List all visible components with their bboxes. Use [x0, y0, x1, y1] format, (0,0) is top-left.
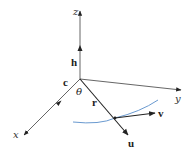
x-axis-label: x — [13, 129, 19, 140]
r-u-vector — [80, 79, 128, 135]
v-vector-label: v — [158, 107, 164, 119]
vector-diagram: z h y x c θ r u v — [0, 0, 195, 155]
trajectory-curve — [73, 100, 158, 123]
v-vector — [115, 113, 155, 118]
c-arrowhead-icon — [56, 101, 62, 107]
x-axis — [24, 79, 80, 135]
u-vector-label: u — [128, 137, 134, 149]
z-axis — [78, 11, 83, 79]
r-vector-label: r — [92, 96, 97, 108]
h-arrowhead-icon — [78, 45, 83, 51]
y-axis — [80, 79, 181, 90]
h-vector-label: h — [71, 56, 77, 68]
theta-angle-label: θ — [76, 86, 82, 97]
y-axis-label: y — [174, 93, 181, 104]
z-axis-label: z — [72, 6, 79, 17]
c-vector-label: c — [63, 76, 68, 88]
